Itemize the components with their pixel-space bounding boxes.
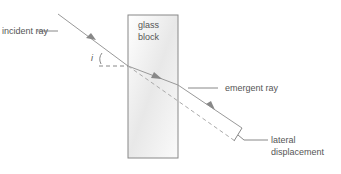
incident-ray: [58, 14, 128, 66]
incident-ray-label: incident ray: [2, 25, 48, 37]
angle-arc: [100, 53, 102, 64]
glass-block-label: block: [138, 31, 159, 43]
arrow-icon: [206, 101, 215, 110]
lateral-displacement-label: lateral: [271, 134, 296, 146]
emergent-ray-label: emergent ray: [225, 82, 278, 94]
glass-block-label: glass: [138, 19, 159, 31]
lateral-displacement-label: displacement: [271, 146, 324, 158]
arrow-icon: [86, 33, 96, 40]
angle-label: i: [91, 52, 93, 64]
